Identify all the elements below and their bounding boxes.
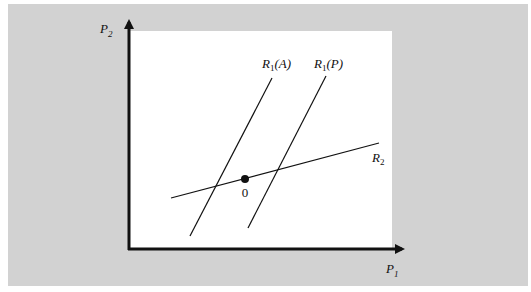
label-r1-p: R1(P) — [313, 56, 343, 73]
curve-r2 — [171, 143, 379, 198]
point-label: 0 — [242, 185, 249, 200]
curve-r1-p — [248, 76, 326, 228]
reaction-curves-diagram: P2 P1 R1(A) R1(P) R2 0 — [0, 0, 531, 292]
equilibrium-point — [241, 175, 249, 183]
diagram: P2 P1 R1(A) R1(P) R2 0 — [0, 0, 531, 292]
curve-r1-a — [190, 78, 272, 236]
label-r2: R2 — [371, 150, 384, 167]
y-axis-label: P2 — [99, 21, 113, 39]
label-r1-a: R1(A) — [261, 56, 291, 73]
x-axis-label: P1 — [385, 261, 398, 279]
